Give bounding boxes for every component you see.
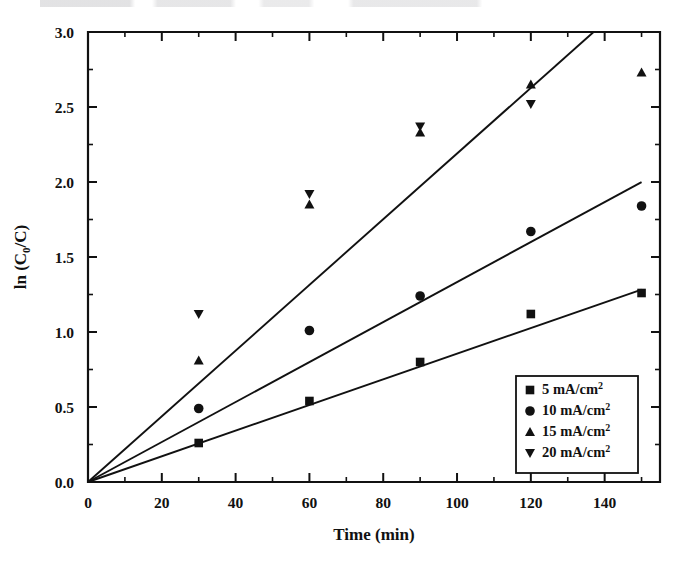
chart-plot: 020406080100120140 0.00.51.01.52.02.53.0… [0,0,691,562]
legend-superscript: 2 [598,380,603,391]
legend: 5 mA/cm210 mA/cm215 mA/cm220 mA/cm2 [516,376,638,473]
x-tick-label: 140 [593,494,617,511]
marker-triangle-up [637,68,647,77]
y-tick-label: 1.5 [55,249,75,266]
marker-circle [415,291,425,301]
marker-square [416,358,425,367]
x-tick-label: 120 [519,494,543,511]
y-axis-title-base: ln (C [11,253,30,289]
marker-circle [637,201,647,211]
y-tick-label: 0.5 [55,399,75,416]
marker-square [305,397,314,406]
marker-triangle-down [304,190,314,199]
legend-superscript: 2 [605,401,610,412]
marker-triangle-down [194,310,204,319]
legend-superscript: 2 [605,443,610,454]
x-tick-label: 100 [445,494,469,511]
marker-triangle-up [304,200,314,209]
legend-label: 10 mA/cm2 [542,401,610,418]
legend-label: 20 mA/cm2 [542,443,610,460]
x-axis-tick-labels: 020406080100120140 [84,494,616,511]
marker-square [637,289,646,298]
x-tick-label: 0 [84,494,92,511]
marker-circle [525,406,535,416]
y-axis-title-tail: /C) [11,225,30,249]
marker-square [526,386,535,395]
x-tick-label: 20 [154,494,170,511]
y-tick-label: 2.5 [55,99,75,116]
y-axis-title: ln (C0/C) [11,225,32,290]
marker-circle [194,404,204,414]
legend-label: 15 mA/cm2 [542,422,610,439]
marker-square [527,310,536,319]
x-tick-label: 80 [375,494,391,511]
y-axis-tick-labels: 0.00.51.01.52.02.53.0 [55,24,75,491]
marker-triangle-down [415,123,425,132]
y-tick-label: 1.0 [55,324,75,341]
y-tick-label: 0.0 [55,474,75,491]
x-tick-label: 60 [302,494,318,511]
legend-superscript: 2 [605,422,610,433]
marker-square [194,439,203,448]
legend-label: 5 mA/cm2 [542,380,603,397]
marker-triangle-up [194,356,204,365]
figure-canvas: 020406080100120140 0.00.51.01.52.02.53.0… [0,0,691,562]
x-tick-label: 40 [228,494,244,511]
marker-triangle-down [526,100,536,109]
axis-titles: Time (min)ln (C0/C) [11,225,415,544]
x-axis-title: Time (min) [333,525,414,544]
y-tick-label: 3.0 [55,24,75,41]
marker-circle [526,227,536,237]
y-tick-label: 2.0 [55,174,75,191]
marker-circle [305,326,315,336]
